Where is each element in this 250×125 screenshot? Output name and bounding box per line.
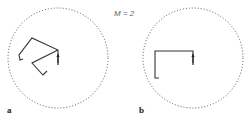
panel-a (8, 8, 108, 108)
panel-b (143, 8, 243, 108)
panel-label-a: a (7, 105, 12, 115)
walk-path-a-2 (32, 50, 58, 75)
panel-label-b: b (139, 105, 144, 115)
arrow-icon-b (192, 53, 195, 65)
annotation-m-value: M = 2 (114, 9, 134, 18)
walk-path-b-1 (155, 51, 193, 78)
arrow-icon-a (57, 53, 60, 65)
figure-canvas (0, 0, 250, 125)
